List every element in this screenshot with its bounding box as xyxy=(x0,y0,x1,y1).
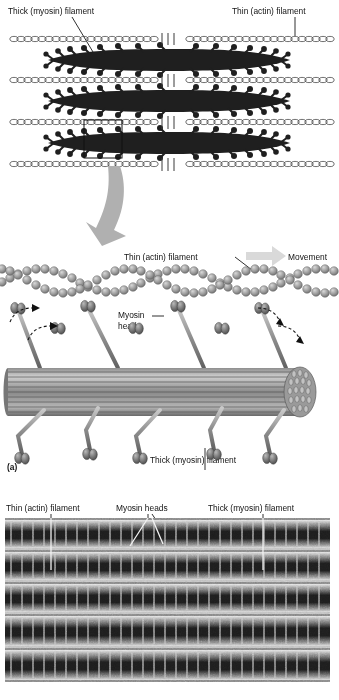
thick-filament-row xyxy=(43,42,290,161)
myosin-head-resting xyxy=(51,322,230,334)
myosin-crossbridge-lower xyxy=(15,408,284,464)
actin-filament xyxy=(0,265,338,298)
magnify-arrow xyxy=(80,160,170,250)
electron-micrograph xyxy=(5,518,330,682)
muscle-filament-figure: Thick (myosin) filament Thin (actin) fil… xyxy=(0,0,339,700)
myosin-crossbridge-upper xyxy=(11,300,286,368)
micrograph-grain-coarse xyxy=(5,518,330,682)
movement-arrow xyxy=(246,246,286,266)
crossbridge-detail-panel xyxy=(0,240,339,475)
